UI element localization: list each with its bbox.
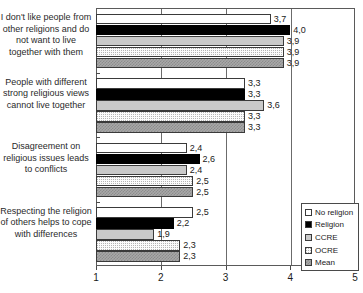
bar-value-label: 3,3 xyxy=(248,111,261,121)
bar xyxy=(96,207,193,217)
bar xyxy=(96,176,193,186)
bar xyxy=(96,58,284,68)
bar xyxy=(96,154,200,164)
x-axis-tick-label: 4 xyxy=(280,272,300,284)
legend-item[interactable]: Mean xyxy=(305,256,356,269)
bar xyxy=(96,111,245,121)
bar-value-label: 2,4 xyxy=(190,143,203,153)
legend-item-label: No religion xyxy=(315,208,353,217)
bar-value-label: 2,6 xyxy=(203,154,216,164)
bar-value-label: 3,9 xyxy=(287,36,300,46)
bar xyxy=(96,187,193,197)
category-label: People with different strong religious v… xyxy=(0,77,92,134)
legend-item[interactable]: OCRE xyxy=(305,244,356,257)
bar xyxy=(96,100,264,110)
y-axis-tick xyxy=(96,137,100,138)
x-axis-tick xyxy=(161,266,162,270)
legend-item[interactable]: CCRE xyxy=(305,231,356,244)
bar xyxy=(96,251,180,261)
legend-item[interactable]: No religion xyxy=(305,206,356,219)
bar-value-label: 2,5 xyxy=(196,207,209,217)
bar-value-label: 1,9 xyxy=(157,229,170,239)
chart-legend: No religionReligionCCREOCREMean xyxy=(301,203,359,271)
bar-value-label: 3,9 xyxy=(287,58,300,68)
legend-item-label: Mean xyxy=(315,258,335,267)
bar-value-label: 3,3 xyxy=(248,89,261,99)
bar-value-label: 3,9 xyxy=(287,47,300,57)
bar-value-label: 4,0 xyxy=(293,25,306,35)
bar-value-label: 2,2 xyxy=(177,218,190,228)
x-axis-tick xyxy=(290,266,291,270)
category-label: Disagreement on religious issues leads t… xyxy=(0,141,92,198)
bar-chart: 3,74,03,93,93,93,33,33,63,33,32,42,62,42… xyxy=(0,0,363,293)
category-label: Respecting the religion of others helps … xyxy=(0,206,92,263)
bar-value-label: 3,6 xyxy=(267,100,280,110)
bar-value-label: 3,3 xyxy=(248,78,261,88)
bar-value-label: 2,3 xyxy=(183,251,196,261)
bar-value-label: 2,5 xyxy=(196,187,209,197)
x-axis-tick-label: 5 xyxy=(345,272,363,284)
bar xyxy=(96,25,290,35)
bar xyxy=(96,240,180,250)
bar-value-label: 2,3 xyxy=(183,240,196,250)
category-label: I don't like people from other religions… xyxy=(0,12,92,69)
bar-value-label: 2,4 xyxy=(190,165,203,175)
x-axis-tick-label: 2 xyxy=(151,272,171,284)
x-axis-tick-label: 1 xyxy=(86,272,106,284)
bar xyxy=(96,165,187,175)
x-axis-tick xyxy=(96,266,97,270)
x-axis-tick xyxy=(226,266,227,270)
legend-swatch-icon xyxy=(305,209,312,216)
legend-item-label: CCRE xyxy=(315,233,338,242)
bar xyxy=(96,122,245,132)
legend-swatch-icon xyxy=(305,234,312,241)
y-axis-tick xyxy=(96,202,100,203)
bar xyxy=(96,47,284,57)
legend-swatch-icon xyxy=(305,221,312,228)
x-axis-tick-label: 3 xyxy=(216,272,236,284)
legend-item[interactable]: Religion xyxy=(305,219,356,232)
bar xyxy=(96,89,245,99)
legend-item-label: Religion xyxy=(315,220,344,229)
legend-swatch-icon xyxy=(305,247,312,254)
bar-value-label: 3,3 xyxy=(248,122,261,132)
y-axis-tick xyxy=(96,73,100,74)
bar xyxy=(96,78,245,88)
bar xyxy=(96,143,187,153)
bar-value-label: 2,5 xyxy=(196,176,209,186)
bar xyxy=(96,229,154,239)
legend-swatch-icon xyxy=(305,259,312,266)
legend-item-label: OCRE xyxy=(315,246,338,255)
bar xyxy=(96,218,174,228)
bar xyxy=(96,14,271,24)
bar-value-label: 3,7 xyxy=(274,14,287,24)
bar xyxy=(96,36,284,46)
